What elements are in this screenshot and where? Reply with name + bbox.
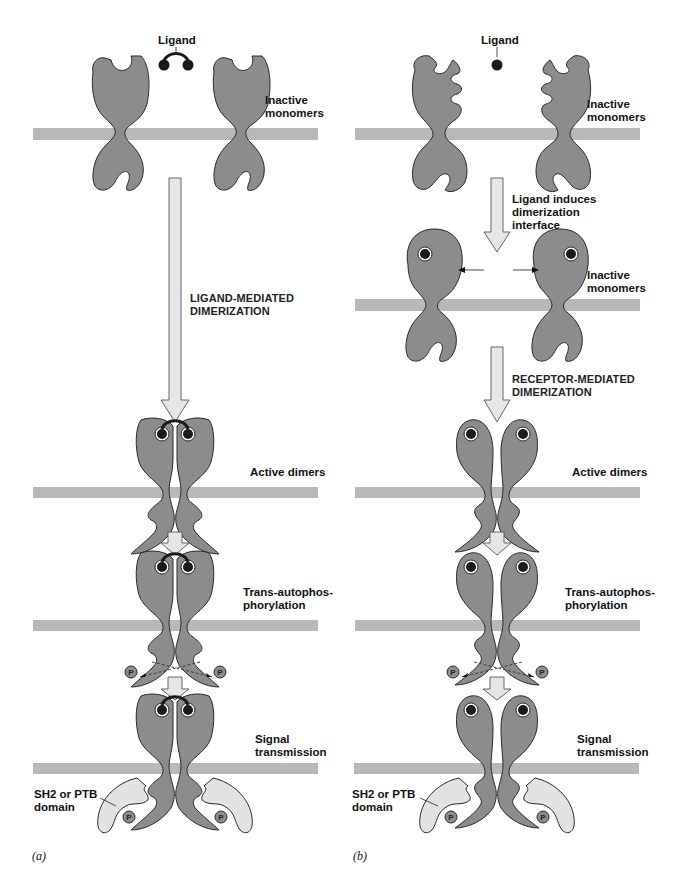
phosphorylating-dimer bbox=[455, 553, 539, 685]
cell-membrane bbox=[33, 763, 318, 774]
svg-text:P: P bbox=[126, 813, 132, 822]
panel-label-a: (a) bbox=[32, 849, 46, 863]
step-label: monomers bbox=[587, 282, 646, 294]
monovalent-ligand-icon bbox=[492, 60, 503, 71]
bivalent-ligand-icon bbox=[159, 54, 194, 71]
step-label: Inactive bbox=[587, 269, 630, 281]
cell-membrane bbox=[355, 128, 640, 140]
step-arrow bbox=[483, 677, 511, 700]
step-label: Active dimers bbox=[572, 466, 647, 478]
adapter-protein bbox=[98, 778, 253, 833]
figure: Ligand Inactive monomers LIGAND-MEDIATED… bbox=[0, 0, 680, 889]
transition-arrow bbox=[484, 347, 510, 422]
ligand-label-a: Ligand bbox=[158, 34, 196, 46]
transition-arrow bbox=[161, 178, 189, 422]
step-label: monomers bbox=[265, 107, 324, 119]
phosphorylating-dimer bbox=[131, 551, 219, 687]
receptor-monomer bbox=[213, 56, 270, 190]
svg-text:P: P bbox=[218, 813, 224, 822]
signaling-dimer bbox=[131, 694, 219, 830]
phosphate-icon: P bbox=[125, 666, 137, 678]
cell-membrane bbox=[355, 487, 640, 498]
transition-label: DIMERIZATION bbox=[190, 305, 270, 317]
step-label: Inactive bbox=[587, 98, 630, 110]
adapter-label: domain bbox=[34, 801, 75, 813]
cell-membrane bbox=[33, 620, 318, 631]
receptor-monomer bbox=[536, 56, 591, 192]
trans-phosphorylation-arrows bbox=[462, 662, 534, 677]
adapter-label: SH2 or PTB bbox=[34, 788, 97, 800]
transition-label: LIGAND-MEDIATED bbox=[190, 292, 294, 304]
phosphate-icon: P bbox=[447, 666, 459, 678]
approach-arrows bbox=[458, 267, 539, 273]
ligand-bound-monomer bbox=[406, 229, 462, 361]
step-label: Trans-autophos- bbox=[565, 586, 655, 598]
panel-b: Ligand Inactive monomers Ligand induces … bbox=[352, 34, 655, 863]
phosphate-icon: P bbox=[123, 811, 135, 823]
panel-a: Ligand Inactive monomers LIGAND-MEDIATED… bbox=[32, 34, 333, 863]
step-label: phorylation bbox=[243, 599, 306, 611]
step-label: Signal bbox=[577, 733, 612, 745]
induce-label: dimerization bbox=[512, 206, 580, 218]
transition-arrow bbox=[484, 178, 510, 252]
induce-label: Ligand induces bbox=[512, 193, 596, 205]
svg-text:P: P bbox=[217, 668, 223, 677]
panel-label-b: (b) bbox=[353, 849, 367, 863]
svg-text:P: P bbox=[539, 668, 545, 677]
svg-text:P: P bbox=[448, 813, 454, 822]
phosphate-icon: P bbox=[214, 666, 226, 678]
adapter-label: domain bbox=[352, 801, 393, 813]
phosphate-icon: P bbox=[215, 811, 227, 823]
cell-membrane bbox=[355, 620, 640, 631]
cell-membrane bbox=[355, 299, 640, 311]
cell-membrane bbox=[354, 763, 639, 774]
svg-text:P: P bbox=[128, 668, 134, 677]
adapter-protein bbox=[420, 778, 575, 833]
ligand-bound-monomer bbox=[532, 229, 588, 361]
phosphate-icon: P bbox=[445, 811, 457, 823]
phosphate-icon: P bbox=[536, 666, 548, 678]
step-label: transmission bbox=[577, 746, 649, 758]
step-label: transmission bbox=[255, 746, 327, 758]
step-label: Active dimers bbox=[250, 466, 325, 478]
phosphate-icon: P bbox=[537, 811, 549, 823]
transition-label: DIMERIZATION bbox=[512, 386, 592, 398]
cell-membrane bbox=[33, 487, 318, 498]
svg-text:P: P bbox=[540, 813, 546, 822]
receptor-monomer bbox=[412, 56, 467, 192]
adapter-label: SH2 or PTB bbox=[352, 788, 415, 800]
step-label: Signal bbox=[255, 733, 290, 745]
induce-label: interface bbox=[512, 219, 560, 231]
cell-membrane bbox=[33, 128, 318, 140]
ligand-label-b: Ligand bbox=[481, 34, 519, 46]
step-label: phorylation bbox=[565, 599, 628, 611]
step-label: monomers bbox=[587, 111, 646, 123]
svg-text:P: P bbox=[450, 668, 456, 677]
receptor-monomer bbox=[92, 56, 149, 190]
step-label: Trans-autophos- bbox=[243, 586, 333, 598]
step-label: Inactive bbox=[265, 94, 308, 106]
signaling-dimer bbox=[455, 696, 539, 828]
transition-label: RECEPTOR-MEDIATED bbox=[512, 373, 635, 385]
